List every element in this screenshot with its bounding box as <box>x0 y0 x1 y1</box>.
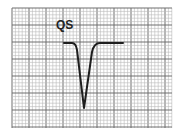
ecg-diagram <box>0 0 183 135</box>
qs-label: QS <box>56 18 73 32</box>
ecg-grid <box>12 8 172 128</box>
